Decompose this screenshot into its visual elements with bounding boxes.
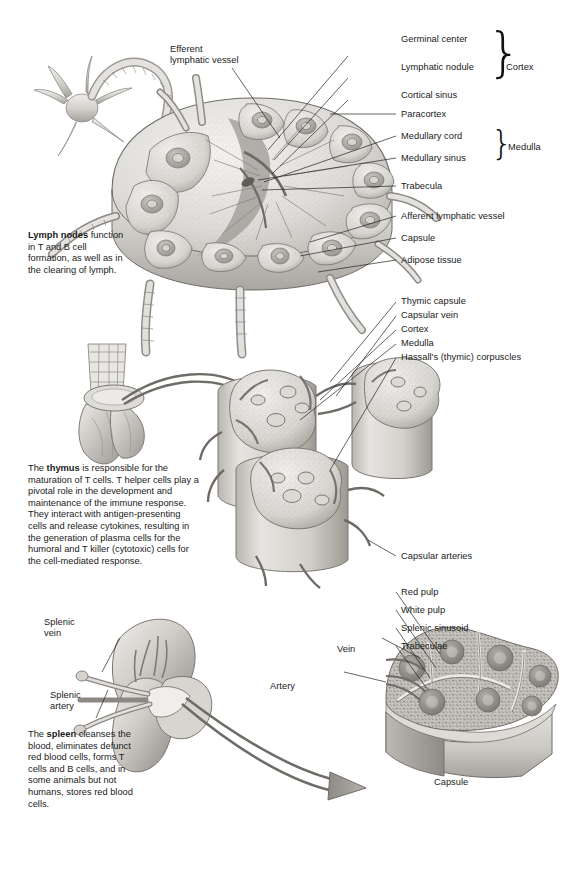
label-line-2: vein xyxy=(44,628,61,638)
label-efferent-lymphatic-vessel: Efferent lymphatic vessel xyxy=(170,44,262,66)
label-splenic-artery: Splenic artery xyxy=(50,690,108,712)
paragraph-spleen-bold: spleen xyxy=(47,729,76,739)
label-capsule: Capsule xyxy=(401,233,435,244)
label-medullary-sinus: Medullary sinus xyxy=(401,153,466,164)
label-thymus-medulla: Medulla xyxy=(401,338,434,349)
label-line-1: Efferent xyxy=(170,44,203,54)
paragraph-spleen-post: cleanses the blood, eliminates defunct r… xyxy=(28,729,133,809)
paragraph-thymus-bold: thymus xyxy=(47,463,80,473)
label-germinal-center: Germinal center xyxy=(401,34,467,45)
caption-lymph-nodes: Lymph nodes function in T and B cell for… xyxy=(28,230,128,276)
label-group-medulla: Medulla xyxy=(508,142,541,153)
label-thymic-capsule: Thymic capsule xyxy=(401,296,466,307)
figure-canvas: Efferent lymphatic vessel Germinal cente… xyxy=(0,0,573,878)
lymph-node-illustration xyxy=(34,56,436,354)
label-thymus-cortex: Cortex xyxy=(401,324,429,335)
label-capsular-arteries: Capsular arteries xyxy=(401,551,472,562)
label-line-2: lymphatic vessel xyxy=(170,55,239,65)
label-line-2: artery xyxy=(50,701,74,711)
label-splenic-sinusoid: Splenic sinusoid xyxy=(401,623,469,634)
paragraph-thymus-pre: The xyxy=(28,463,47,473)
label-spleen-vein: Vein xyxy=(337,644,355,655)
label-afferent-lymphatic-vessel: Afferent lymphatic vessel xyxy=(401,211,505,222)
label-cortical-sinus: Cortical sinus xyxy=(401,90,457,101)
paragraph-spleen: The spleen cleanses the blood, eliminate… xyxy=(28,729,140,810)
label-splenic-vein: Splenic vein xyxy=(44,617,102,639)
paragraph-spleen-pre: The xyxy=(28,729,47,739)
label-trabecula: Trabecula xyxy=(401,181,442,192)
label-capsular-vein: Capsular vein xyxy=(401,310,458,321)
label-paracortex: Paracortex xyxy=(401,109,446,120)
label-red-pulp: Red pulp xyxy=(401,587,438,598)
label-trabeculae: Trabeculae xyxy=(401,641,447,652)
label-line-1: Splenic xyxy=(44,617,75,627)
paragraph-thymus: The thymus is responsible for the matura… xyxy=(28,463,200,567)
label-group-cortex: Cortex xyxy=(506,62,534,73)
label-line-1: Splenic xyxy=(50,690,81,700)
label-white-pulp: White pulp xyxy=(401,605,445,616)
label-adipose-tissue: Adipose tissue xyxy=(401,255,462,266)
caption-lymph-nodes-bold: Lymph nodes xyxy=(28,230,88,240)
label-spleen-artery: Artery xyxy=(270,681,295,692)
label-lymphatic-nodule: Lymphatic nodule xyxy=(401,62,474,73)
label-hassalls-corpuscles: Hassall's (thymic) corpuscles xyxy=(401,352,521,363)
label-spleen-capsule: Capsule xyxy=(434,777,468,788)
paragraph-thymus-post: is responsible for the maturation of T c… xyxy=(28,463,199,566)
label-medullary-cord: Medullary cord xyxy=(401,131,462,142)
